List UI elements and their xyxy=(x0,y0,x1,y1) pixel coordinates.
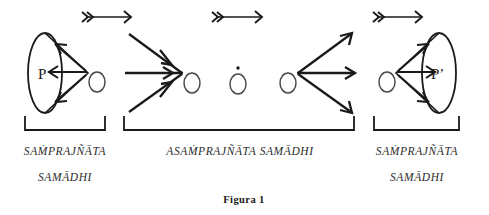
cone-right-label: P’ xyxy=(431,66,444,82)
stage-label-left-line1: SAṀPRAJÑĀTA xyxy=(24,144,107,157)
figure-1-diagram: P xyxy=(0,0,489,215)
stage-label-right-line2: SAMĀDHI xyxy=(390,171,445,183)
stage-label-right-line1: SAṀPRAJÑĀTA xyxy=(376,144,459,157)
stage-label-middle: ASAṀPRAJÑĀTA SAMĀDHI xyxy=(165,144,314,157)
middle-point-dot xyxy=(236,66,239,69)
stage-label-left-line2: SAMĀDHI xyxy=(38,171,93,183)
figure-caption: Figura 1 xyxy=(223,194,264,205)
figure-container: P xyxy=(0,0,489,215)
cone-left-label: P xyxy=(38,66,46,82)
